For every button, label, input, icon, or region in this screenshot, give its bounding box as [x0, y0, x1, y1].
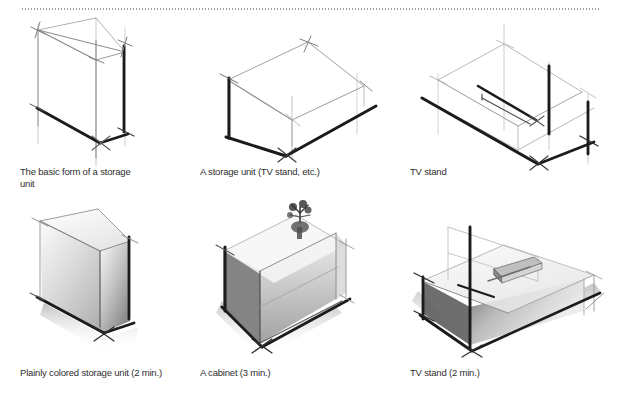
sketch-low-storage-unit-wireframe	[200, 34, 380, 169]
sketch-storage-unit-wireframe	[18, 16, 168, 166]
sketch-tv-stand-wireframe	[408, 22, 608, 172]
figure-cell-4: Plainly colored storage unit (2 min.)	[18, 201, 203, 401]
figure-caption-4: Plainly colored storage unit (2 min.)	[20, 367, 200, 379]
sketch-storage-unit-shaded	[18, 209, 173, 359]
figure-cell-6: TV stand (2 min.)	[408, 201, 620, 401]
page-canvas: The basic form of a storage unit	[0, 0, 620, 401]
sketch-cabinet-shaded	[204, 201, 384, 366]
figure-cell-5: A cabinet (3 min.)	[200, 201, 400, 401]
figure-row-top: The basic form of a storage unit	[0, 16, 620, 201]
figure-caption-3: TV stand	[410, 166, 600, 178]
figure-cell-1: The basic form of a storage unit	[18, 16, 203, 201]
dotted-rule-divider	[22, 8, 600, 10]
sketch-tv-stand-shaded	[408, 223, 608, 368]
figure-cell-3: TV stand	[408, 16, 620, 201]
figure-caption-5: A cabinet (3 min.)	[200, 367, 390, 379]
figure-row-bottom: Plainly colored storage unit (2 min.)	[0, 201, 620, 401]
figure-cell-2: A storage unit (TV stand, etc.)	[200, 16, 400, 201]
figure-caption-2: A storage unit (TV stand, etc.)	[200, 166, 390, 178]
figure-caption-1: The basic form of a storage unit	[20, 166, 190, 189]
figure-caption-6: TV stand (2 min.)	[410, 367, 600, 379]
